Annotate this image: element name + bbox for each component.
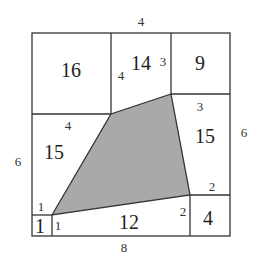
region-area: 4 (203, 207, 213, 229)
outer-label-top: 4 (138, 14, 145, 29)
edge-label: 4 (65, 118, 72, 133)
edge-label: 1 (55, 218, 62, 233)
edge-label: 2 (180, 204, 187, 219)
edge-label: 1 (38, 199, 45, 214)
outer-label-right: 6 (241, 125, 248, 140)
outer-label-left: 6 (15, 154, 22, 169)
region-area: 15 (195, 125, 215, 147)
outer-label-bottom: 8 (121, 240, 128, 255)
edge-label: 2 (209, 179, 216, 194)
region-area: 15 (44, 141, 64, 163)
geometry-diagram: 4 6 6 8 16 14 9 15 15 12 4 1 4 3 3 4 2 2… (0, 0, 256, 268)
edge-label: 3 (197, 99, 204, 114)
region-area: 9 (195, 52, 205, 74)
shaded-region (52, 94, 190, 215)
region-area: 12 (119, 211, 139, 233)
region-area: 16 (61, 59, 81, 81)
edge-label: 4 (118, 68, 125, 83)
edge-label: 3 (160, 54, 167, 69)
region-area: 14 (131, 52, 151, 74)
region-area: 1 (35, 215, 45, 237)
